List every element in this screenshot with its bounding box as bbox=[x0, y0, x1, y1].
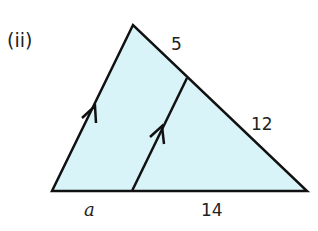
label-14: 14 bbox=[201, 200, 223, 220]
label-5: 5 bbox=[171, 34, 182, 54]
triangle-diagram: (ii) 5 12 a 14 bbox=[0, 0, 318, 231]
part-label: (ii) bbox=[7, 29, 32, 51]
label-a: a bbox=[84, 199, 95, 220]
label-12: 12 bbox=[251, 114, 273, 134]
